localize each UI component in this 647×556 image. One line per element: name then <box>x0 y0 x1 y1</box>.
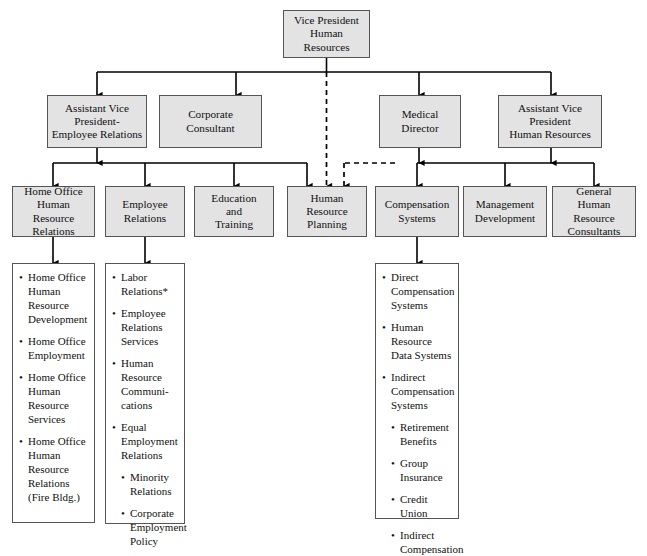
list-item: Human Resource Communi- cations <box>112 357 178 413</box>
list-item: Home Office Human Resource Relations (Fi… <box>19 435 88 505</box>
list-employee-relations[interactable]: Labor Relations*Employee Relations Servi… <box>105 263 185 524</box>
list-item: Retirement Benefits <box>382 421 452 449</box>
node-label: Medical Director <box>401 108 438 134</box>
node-label: Compensation Systems <box>385 198 450 224</box>
list-item: Human Resource Data Systems <box>382 321 452 363</box>
node-employee-relations[interactable]: Employee Relations <box>105 186 185 237</box>
node-management-development[interactable]: Management Development <box>463 186 547 237</box>
node-label: Employee Relations <box>122 198 167 224</box>
node-label: Assistant Vice President- Employee Relat… <box>52 102 142 142</box>
node-compensation-systems[interactable]: Compensation Systems <box>375 186 459 237</box>
node-general-human-resource-consultants[interactable]: General Human Resource Consultants <box>552 186 636 237</box>
node-label: Education and Training <box>211 192 256 232</box>
list-item: Home Office Human Resource Services <box>19 371 88 427</box>
list-compensation-systems[interactable]: Direct Compensation SystemsHuman Resourc… <box>375 263 459 519</box>
list-items: Labor Relations*Employee Relations Servi… <box>112 271 178 548</box>
node-label: Assistant Vice President Human Resources <box>509 102 591 142</box>
list-item: Labor Relations* <box>112 271 178 299</box>
list-items: Home Office Human Resource DevelopmentHo… <box>19 271 88 505</box>
node-assistant-vp-human-resources[interactable]: Assistant Vice President Human Resources <box>498 95 602 148</box>
node-vp-human-resources[interactable]: Vice President Human Resources <box>283 10 370 58</box>
list-item: Equal Employment Relations <box>112 421 178 463</box>
node-education-and-training[interactable]: Education and Training <box>194 186 274 237</box>
list-item: Credit Union <box>382 493 452 521</box>
node-home-office-human-resource-relations[interactable]: Home Office Human Resource Relations <box>12 186 95 237</box>
node-label: General Human Resource Consultants <box>556 185 632 238</box>
list-item: Indirect Compensation Systems <box>382 371 452 413</box>
node-medical-director[interactable]: Medical Director <box>379 95 461 148</box>
list-item: Direct Compensation Systems <box>382 271 452 313</box>
list-item: Group Insurance <box>382 457 452 485</box>
list-items: Direct Compensation SystemsHuman Resourc… <box>382 271 452 556</box>
list-item: Corporate Employment Policy <box>112 507 178 549</box>
node-human-resource-planning[interactable]: Human Resource Planning <box>287 186 367 237</box>
list-item: Indirect Compensation <box>382 529 452 556</box>
node-label: Home Office Human Resource Relations <box>16 185 91 238</box>
node-corporate-consultant[interactable]: Corporate Consultant <box>159 95 262 148</box>
list-item: Home Office Employment <box>19 335 88 363</box>
list-home-office-human-resource-relations[interactable]: Home Office Human Resource DevelopmentHo… <box>12 263 95 523</box>
list-item: Employee Relations Services <box>112 307 178 349</box>
node-label: Human Resource Planning <box>306 192 348 232</box>
node-assistant-vp-employee-relations[interactable]: Assistant Vice President- Employee Relat… <box>47 95 147 148</box>
node-label: Vice President Human Resources <box>287 14 366 54</box>
list-item: Minority Relations <box>112 471 178 499</box>
node-label: Management Development <box>475 198 535 224</box>
list-item: Home Office Human Resource Development <box>19 271 88 327</box>
node-label: Corporate Consultant <box>186 108 234 134</box>
